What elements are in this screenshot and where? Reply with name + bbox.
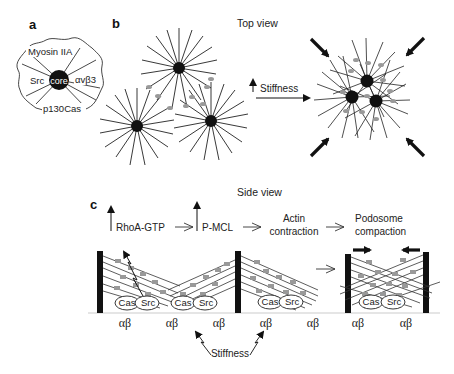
src-label: Src bbox=[30, 75, 45, 86]
step-podo-line2: compaction bbox=[355, 226, 406, 237]
panel-a-label: a bbox=[29, 17, 37, 32]
stiffness-label-top: Stiffness bbox=[260, 83, 298, 94]
stiffness-arrow-left bbox=[196, 332, 211, 355]
step-actin-line2: contraction bbox=[270, 226, 319, 237]
cas-label: Cas bbox=[262, 296, 279, 307]
integrin-label: αvβ3 bbox=[75, 74, 96, 85]
integrin-label: αβ bbox=[119, 316, 131, 330]
integrin-label: αβ bbox=[352, 316, 364, 330]
step-pmcl: P-MCL bbox=[202, 222, 234, 233]
stiffness-label-bottom: Stiffness bbox=[211, 348, 249, 359]
cas-label: Cas bbox=[363, 296, 380, 307]
panel-b: b Top view bbox=[100, 16, 424, 165]
src-label: Src bbox=[387, 296, 402, 307]
panel-c-label: c bbox=[90, 197, 97, 212]
myosin-dots bbox=[146, 77, 214, 110]
core-label: core bbox=[50, 76, 68, 86]
step-actin-line1: Actin bbox=[283, 213, 305, 224]
side-view-title: Side view bbox=[237, 186, 282, 198]
integrin-label: αβ bbox=[400, 316, 412, 330]
integrin-label: αβ bbox=[260, 316, 272, 330]
integrin-label: αβ bbox=[213, 316, 225, 330]
top-view-title: Top view bbox=[237, 17, 278, 29]
podosome-bottom-left bbox=[100, 88, 174, 165]
cas-label: Cas bbox=[119, 297, 136, 308]
myosin-label: Myosin IIA bbox=[28, 46, 73, 57]
integrin-label: αβ bbox=[166, 316, 178, 330]
panel-b-label: b bbox=[112, 16, 120, 31]
podosome-cluster bbox=[314, 38, 410, 140]
src-label: Src bbox=[285, 296, 300, 307]
cas-label: Cas bbox=[175, 297, 192, 308]
panel-c: c Side view RhoA-GTP P-MCL Actin contrac… bbox=[88, 186, 440, 359]
integrin-label: αβ bbox=[307, 316, 319, 330]
panel-a: a core Myosin IIA Src αvβ3 p130Cas bbox=[17, 17, 103, 114]
step-podo-line1: Podosome bbox=[355, 213, 403, 224]
stiffness-arrow-right bbox=[250, 332, 263, 355]
p130cas-label: p130Cas bbox=[43, 103, 81, 114]
podosome-top bbox=[141, 28, 217, 108]
podosome-diagram: a core Myosin IIA Src αvβ3 p130Cas b Top… bbox=[0, 0, 454, 374]
podosome-bottom-right bbox=[174, 82, 248, 160]
src-label: Src bbox=[141, 297, 156, 308]
podosome-left bbox=[100, 28, 248, 165]
src-label: Src bbox=[199, 297, 214, 308]
step-rhoa: RhoA-GTP bbox=[116, 222, 165, 233]
